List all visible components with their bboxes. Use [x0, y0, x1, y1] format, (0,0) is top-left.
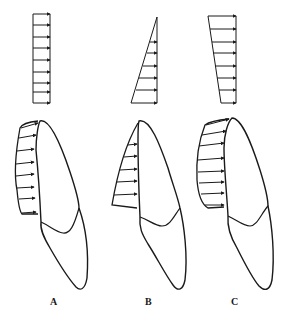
force-distribution-diagram	[0, 0, 283, 318]
load-diagram-b	[131, 17, 157, 103]
tooth-b	[112, 121, 186, 289]
panel-label-c: C	[231, 296, 238, 307]
load-diagram-a	[33, 14, 50, 103]
panel-label-a: A	[50, 296, 57, 307]
load-diagram-c	[208, 16, 236, 103]
panel-label-b: B	[145, 296, 152, 307]
tooth-a	[16, 121, 88, 289]
tooth-c	[197, 118, 273, 289]
